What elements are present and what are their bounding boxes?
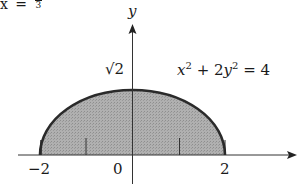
eq-rhs: = 4 (243, 61, 270, 79)
x-tick-neg2: −2 (28, 162, 50, 177)
fraction-denominator: 3 (36, 1, 42, 10)
ellipse-diagram: x = 8 3 y √2 x2 + 2y2 = 4 −2 0 2 (0, 0, 299, 184)
header-fraction: 8 3 (35, 0, 43, 10)
x-tick-0: 0 (113, 162, 123, 177)
eq-plus: + 2 (197, 61, 224, 79)
eq-y: y (224, 61, 232, 79)
ellipse-equation: x2 + 2y2 = 4 (177, 61, 270, 78)
y-axis-label: y (128, 4, 136, 19)
eq-x-exp: 2 (185, 60, 191, 71)
x-tick-2: 2 (220, 162, 230, 177)
header-lhs: x (0, 0, 8, 12)
ellipse-plot (0, 0, 299, 184)
eq-y-exp: 2 (232, 60, 238, 71)
header-formula: x = 8 3 (0, 0, 42, 11)
header-equals: = (15, 0, 27, 12)
y-tick-sqrt2: √2 (105, 62, 124, 77)
